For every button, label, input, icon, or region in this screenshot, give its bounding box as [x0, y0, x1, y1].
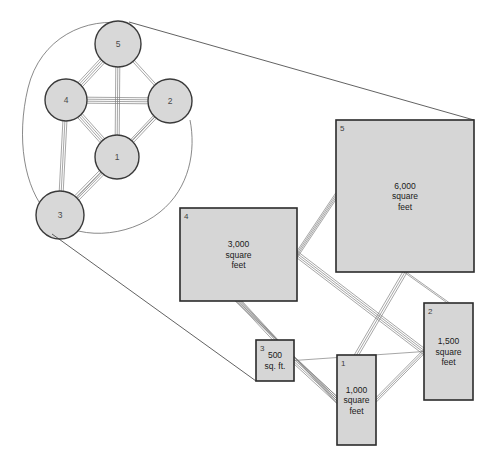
edge-strand — [376, 354, 424, 403]
box-area-line: feet — [349, 406, 364, 416]
graph-edge-5-1 — [115, 66, 120, 136]
box-area-line: sq. ft. — [265, 361, 286, 371]
edge-strand — [133, 118, 157, 143]
box-area-line: feet — [398, 202, 413, 212]
edge-strand — [115, 66, 116, 136]
graph-node-layer: 12345 — [36, 21, 192, 239]
edge-strand — [294, 357, 337, 397]
area-box-1[interactable]: 11,000squarefeet — [337, 355, 376, 445]
edge-strand — [294, 359, 337, 399]
graph-node-1[interactable]: 1 — [95, 135, 139, 179]
graph-node-4[interactable]: 4 — [45, 79, 87, 121]
node-label: 2 — [168, 96, 173, 106]
edge-strand — [61, 120, 65, 192]
box-area-line: 1,500 — [438, 336, 460, 346]
node-label: 1 — [115, 152, 120, 162]
box-area-line: 3,000 — [228, 239, 250, 249]
graph-edge-4-3 — [59, 120, 67, 192]
box-id-label: 1 — [341, 359, 346, 368]
box-area-line: 6,000 — [394, 181, 416, 191]
edge-strand — [376, 352, 424, 401]
edge-strand — [359, 272, 408, 355]
diagram-svg: 1234556,000squarefeet43,000squarefeet21,… — [0, 0, 492, 461]
edge-strand — [132, 61, 155, 86]
edge-strand — [130, 115, 154, 140]
node-label: 5 — [116, 39, 121, 49]
area-edge-2-1 — [376, 349, 424, 402]
edge-strand — [297, 195, 336, 254]
box-id-label: 4 — [184, 212, 189, 221]
graph-edge-layer — [59, 58, 157, 201]
edge-strand — [294, 364, 337, 404]
edge-strand — [357, 272, 406, 355]
edge-strand — [80, 61, 103, 86]
edge-strand — [63, 120, 67, 192]
area-box-4[interactable]: 43,000squarefeet — [180, 208, 297, 301]
edge-strand — [86, 99, 149, 100]
box-area-line: feet — [231, 260, 246, 270]
graph-edge-4-1 — [77, 113, 105, 143]
graph-node-5[interactable]: 5 — [95, 21, 141, 67]
node-label: 4 — [64, 95, 69, 105]
area-box-2[interactable]: 21,500squarefeet — [424, 303, 473, 400]
edge-strand — [297, 193, 336, 252]
edge-strand — [294, 362, 337, 402]
area-box-5[interactable]: 56,000squarefeet — [336, 120, 474, 272]
box-id-label: 3 — [260, 344, 265, 353]
edge-strand — [134, 60, 157, 85]
edge-strand — [77, 173, 103, 200]
figure-canvas: 1234556,000squarefeet43,000squarefeet21,… — [0, 0, 492, 461]
edge-strand — [86, 103, 149, 104]
box-id-label: 2 — [428, 307, 433, 316]
box-id-label: 5 — [340, 124, 345, 133]
edge-strand — [78, 174, 104, 201]
box-area-line: feet — [441, 357, 456, 367]
edge-strand — [79, 59, 102, 84]
area-box-3[interactable]: 3500sq. ft. — [256, 340, 294, 381]
area-edge-5-1 — [354, 272, 407, 355]
edge-strand — [241, 301, 277, 340]
box-area-line: square — [226, 250, 252, 260]
edge-strand — [297, 197, 336, 256]
box-area-line: square — [392, 191, 418, 201]
edge-strand — [297, 199, 336, 258]
edge-strand — [80, 114, 104, 140]
graph-edge-5-4 — [77, 58, 105, 87]
node-label: 3 — [58, 210, 63, 220]
edge-strand — [75, 171, 101, 198]
graph-node-3[interactable]: 3 — [36, 191, 84, 239]
edge-strand — [74, 170, 100, 197]
box-area-line: square — [436, 347, 462, 357]
graph-node-2[interactable]: 2 — [148, 79, 192, 123]
area-edge-5-2 — [404, 272, 450, 303]
edge-strand — [86, 101, 149, 102]
edge-strand — [376, 349, 424, 398]
edge-strand — [86, 97, 149, 98]
box-area-line: square — [344, 395, 370, 405]
graph-edge-5-2 — [132, 60, 157, 87]
edge-strand — [79, 116, 103, 142]
edge-strand — [236, 301, 273, 340]
edge-strand — [59, 120, 63, 192]
area-edge-5-4 — [297, 193, 336, 258]
edge-strand — [117, 66, 118, 136]
edge-strand — [404, 272, 448, 303]
box-area-line: 500 — [268, 350, 282, 360]
box-area-line: 1,000 — [346, 385, 368, 395]
edge-strand — [119, 66, 120, 136]
edge-strand — [406, 272, 450, 303]
edge-strand — [239, 301, 276, 340]
area-box-layer: 56,000squarefeet43,000squarefeet21,500sq… — [180, 120, 474, 445]
